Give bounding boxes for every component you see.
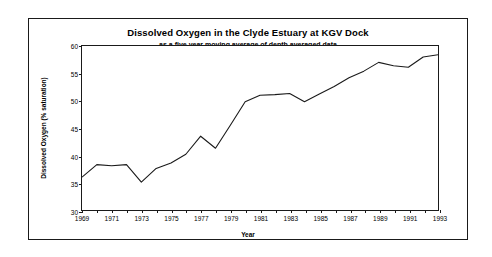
x-tick-label: 1987 — [343, 215, 357, 222]
chart-title: Dissolved Oxygen in the Clyde Estuary at… — [29, 27, 467, 38]
y-tick-label: 50 — [71, 98, 78, 105]
plot-area: 3035404550556019691971197319751977197919… — [81, 45, 439, 211]
x-tick-mark — [112, 210, 113, 213]
y-axis-title: Dissolved Oxygen (% saturation) — [40, 77, 47, 179]
x-tick-mark — [261, 210, 262, 213]
x-tick-mark — [82, 210, 83, 213]
x-tick-label: 1979 — [224, 215, 238, 222]
x-tick-mark — [410, 210, 411, 213]
x-axis-title: Year — [29, 231, 467, 238]
x-tick-mark — [172, 210, 173, 213]
data-line-series — [82, 46, 438, 210]
x-tick-mark — [246, 210, 247, 213]
x-tick-label: 1977 — [194, 215, 208, 222]
x-tick-label: 1971 — [105, 215, 119, 222]
y-tick-mark — [79, 184, 82, 185]
x-tick-mark — [425, 210, 426, 213]
y-tick-mark — [79, 157, 82, 158]
x-tick-mark — [157, 210, 158, 213]
x-tick-mark — [336, 210, 337, 213]
y-tick-label: 35 — [71, 181, 78, 188]
x-tick-mark — [276, 210, 277, 213]
x-tick-mark — [127, 210, 128, 213]
x-tick-mark — [201, 210, 202, 213]
y-tick-mark — [79, 101, 82, 102]
x-tick-label: 1985 — [313, 215, 327, 222]
figure-border: Dissolved Oxygen in the Clyde Estuary at… — [28, 18, 468, 240]
x-tick-label: 1983 — [284, 215, 298, 222]
y-tick-label: 55 — [71, 70, 78, 77]
y-tick-mark — [79, 74, 82, 75]
x-tick-mark — [291, 210, 292, 213]
y-tick-mark — [79, 129, 82, 130]
x-tick-mark — [321, 210, 322, 213]
x-tick-label: 1969 — [75, 215, 89, 222]
x-tick-mark — [351, 210, 352, 213]
y-tick-label: 45 — [71, 126, 78, 133]
y-tick-label: 60 — [71, 43, 78, 50]
x-tick-mark — [97, 210, 98, 213]
x-tick-mark — [306, 210, 307, 213]
y-tick-label: 40 — [71, 153, 78, 160]
x-tick-mark — [380, 210, 381, 213]
x-tick-label: 1973 — [134, 215, 148, 222]
x-tick-label: 1975 — [164, 215, 178, 222]
x-tick-mark — [216, 210, 217, 213]
x-tick-mark — [440, 210, 441, 213]
x-tick-label: 1993 — [433, 215, 447, 222]
x-tick-mark — [186, 210, 187, 213]
x-tick-mark — [395, 210, 396, 213]
x-tick-mark — [365, 210, 366, 213]
y-tick-mark — [79, 46, 82, 47]
x-tick-label: 1989 — [373, 215, 387, 222]
x-tick-mark — [231, 210, 232, 213]
x-tick-label: 1991 — [403, 215, 417, 222]
x-tick-mark — [142, 210, 143, 213]
x-tick-label: 1981 — [254, 215, 268, 222]
